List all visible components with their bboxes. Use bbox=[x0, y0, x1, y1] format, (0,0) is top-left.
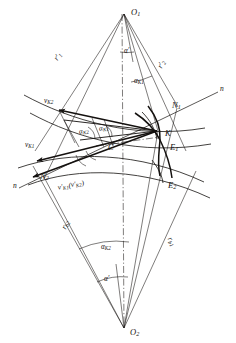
label-E1: E1 bbox=[169, 142, 178, 152]
label-alpha-prime-top: α′ bbox=[124, 47, 130, 55]
label-vK1: vK1 bbox=[25, 141, 35, 150]
velocity-labels: vK2 vK1 v′K1(v′K2) bbox=[25, 97, 85, 192]
label-alpha-K2-mid: αK2 bbox=[78, 126, 89, 136]
label-n-left: n bbox=[13, 181, 17, 190]
label-r2-prime: r′2 bbox=[155, 59, 167, 70]
label-rb1: rb1 bbox=[165, 236, 178, 248]
angle-arcs bbox=[79, 52, 152, 282]
label-rb2: rb2 bbox=[59, 219, 71, 231]
label-alpha-prime-bottom: α′ bbox=[104, 275, 110, 283]
tooth-profile-wheel1 bbox=[148, 106, 160, 176]
angle-labels: α′ αK1 αK2 αK1 αK2 α′ bbox=[78, 47, 144, 283]
label-vK2: vK2 bbox=[44, 97, 54, 106]
point-labels: O1 O2 K C N1 N2 E1 E2 n n bbox=[13, 7, 224, 337]
label-N1: N1 bbox=[171, 100, 181, 110]
label-C: C bbox=[108, 142, 114, 152]
label-vK1-prime-vK2-prime: v′K1(v′K2) bbox=[57, 179, 85, 193]
center-axis bbox=[122, 14, 124, 328]
label-n-right: n bbox=[220, 84, 224, 93]
label-O1: O1 bbox=[131, 7, 140, 17]
label-alpha-K2-bottom: αK2 bbox=[101, 243, 111, 252]
label-r1-prime: r′1 bbox=[52, 51, 64, 63]
diagram-canvas: O1 O2 K C N1 N2 E1 E2 n n r′1 r′2 rb2 rb… bbox=[0, 0, 236, 343]
wheel1-radius-lines bbox=[35, 14, 186, 179]
label-O2: O2 bbox=[130, 327, 139, 337]
label-E2: E2 bbox=[167, 180, 176, 190]
gear-mesh-diagram: O1 O2 K C N1 N2 E1 E2 n n r′1 r′2 rb2 rb… bbox=[0, 0, 236, 343]
velocity-construction bbox=[33, 110, 160, 177]
